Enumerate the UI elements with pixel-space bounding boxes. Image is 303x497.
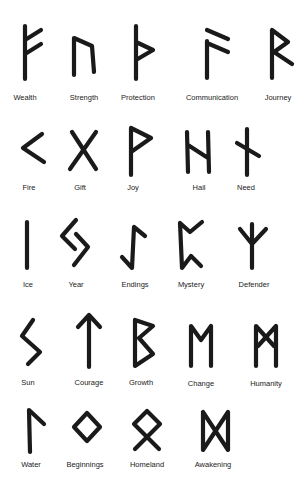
rune-label: Fire [23, 184, 36, 192]
rune-protection-icon [136, 26, 153, 79]
rune-label: Protection [121, 94, 155, 102]
rune-label: Gift [74, 184, 86, 192]
rune-label: Wealth [13, 94, 36, 102]
rune-awakening-icon [203, 412, 228, 450]
rune-label: Beginnings [66, 461, 103, 469]
rune-label: Water [21, 461, 41, 469]
rune-growth-icon [135, 320, 153, 366]
rune-gift-icon [70, 132, 96, 169]
rune-mystery-icon [180, 222, 202, 268]
rune-label: Courage [75, 379, 104, 387]
rune-communication-icon [207, 30, 228, 78]
rune-chart [0, 0, 303, 497]
rune-journey-icon [272, 30, 292, 78]
rune-label: Change [188, 380, 214, 388]
rune-label: Growth [129, 379, 153, 387]
rune-label: Strength [70, 94, 98, 102]
rune-label: Year [68, 281, 83, 289]
rune-label: Endings [121, 281, 148, 289]
rune-hail-icon [187, 132, 209, 172]
rune-fire-icon [23, 134, 44, 162]
rune-strength-icon [74, 38, 94, 75]
rune-joy-icon [131, 128, 151, 175]
rune-label: Awakening [195, 461, 232, 469]
rune-label: Need [237, 184, 255, 192]
rune-label: Journey [265, 94, 292, 102]
rune-label: Mystery [178, 281, 204, 289]
rune-year-icon [62, 220, 88, 265]
rune-need-icon [237, 129, 259, 175]
rune-label: Joy [127, 184, 139, 192]
rune-label: Humanity [250, 380, 282, 388]
rune-wealth-icon [25, 26, 41, 79]
rune-homeland-icon [134, 411, 160, 449]
rune-humanity-icon [256, 326, 276, 366]
rune-change-icon [191, 326, 211, 366]
rune-label: Homeland [130, 461, 164, 469]
rune-water-icon [29, 410, 44, 452]
rune-endings-icon [122, 227, 145, 268]
rune-label: Hail [193, 184, 206, 192]
rune-label: Sun [21, 379, 34, 387]
rune-defender-icon [240, 224, 266, 268]
rune-label: Defender [239, 281, 270, 289]
rune-label: Communication [186, 94, 238, 102]
rune-sun-icon [22, 320, 40, 364]
rune-label: Ice [23, 281, 33, 289]
rune-courage-icon [78, 315, 100, 367]
rune-beginnings-icon [74, 413, 100, 441]
